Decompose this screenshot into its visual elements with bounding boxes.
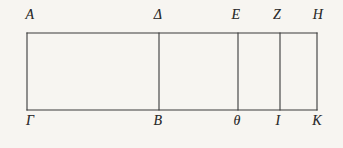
label-B: B xyxy=(154,114,163,128)
label-Delta: Δ xyxy=(154,8,162,22)
label-Z: Z xyxy=(273,8,281,22)
label-K: K xyxy=(312,114,322,128)
label-A: A xyxy=(26,8,35,22)
label-Gamma: Γ xyxy=(26,114,34,128)
diagram-canvas xyxy=(0,0,343,148)
label-H: H xyxy=(313,8,323,22)
label-E: E xyxy=(232,8,241,22)
rectangle-outline xyxy=(27,33,317,110)
divider-lines-group xyxy=(159,33,280,110)
label-theta: θ xyxy=(233,114,240,128)
label-I: I xyxy=(276,114,281,128)
geometric-figure: AΔEZH ΓBθIK xyxy=(0,0,343,148)
